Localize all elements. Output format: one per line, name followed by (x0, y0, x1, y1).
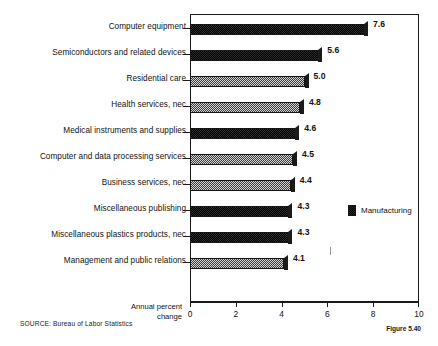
bar-value-label: 5.6 (327, 45, 339, 55)
bar-bevel-side (284, 258, 288, 270)
category-label: Miscellaneous publishing (94, 204, 186, 213)
bar-bevel (288, 203, 292, 218)
bar-row: Computer equipment7.6 (0, 16, 438, 42)
x-tick-label: 6 (325, 309, 330, 319)
bar (190, 99, 300, 114)
bar-bevel-side (295, 128, 299, 140)
bar (190, 229, 288, 244)
bar-value-label: 5.0 (314, 71, 326, 81)
bar-value-label: 4.8 (309, 97, 321, 107)
bar-bevel (300, 99, 304, 114)
bar-bevel-side (288, 206, 292, 218)
legend-label: Manufacturing (361, 206, 412, 215)
category-label: Residential care (126, 74, 186, 83)
category-label: Semiconductors and related devices (52, 48, 186, 57)
bar (190, 125, 295, 140)
category-tick (183, 184, 190, 185)
x-tick (373, 302, 374, 307)
category-label: Business services, nec (102, 178, 186, 187)
bar-fill (190, 258, 284, 269)
bar-fill (190, 206, 288, 217)
category-label: Computer and data processing services (40, 152, 186, 161)
bar-bevel-side (291, 180, 295, 192)
bar-rows: Computer equipment7.6Semiconductors and … (0, 14, 438, 302)
bar-bevel-side (288, 232, 292, 244)
figure-container: Computer equipment7.6Semiconductors and … (0, 0, 438, 346)
chart-legend: Manufacturing (348, 205, 412, 216)
bar-row: Medical instruments and supplies4.6 (0, 120, 438, 146)
x-tick-label: 10 (414, 309, 423, 319)
bar (190, 73, 305, 88)
bar-bevel (293, 151, 297, 166)
bar-fill (190, 24, 364, 35)
bar-fill (190, 128, 295, 139)
category-tick (183, 28, 190, 29)
bar-bevel (291, 177, 295, 192)
x-tick-label: 0 (188, 309, 193, 319)
bar-bevel-side (318, 50, 322, 62)
bar (190, 203, 288, 218)
bar-fill (190, 154, 293, 165)
bar-value-label: 4.5 (302, 149, 314, 159)
category-label: Health services, nec (111, 100, 186, 109)
bar-fill (190, 180, 291, 191)
x-tick (418, 302, 419, 307)
category-tick (183, 210, 190, 211)
x-axis-line (190, 302, 419, 303)
category-tick (183, 262, 190, 263)
x-axis-caption-line1: Annual percent (131, 302, 182, 312)
bar-bevel (364, 21, 368, 36)
bar-bevel-side (293, 154, 297, 166)
x-axis: 0246810 (190, 302, 419, 326)
bar-bevel-side (364, 24, 368, 36)
category-tick (183, 80, 190, 81)
source-note: SOURCE: Bureau of Labor Statistics (20, 320, 132, 327)
bar (190, 47, 318, 62)
x-tick (327, 302, 328, 307)
bar (190, 177, 291, 192)
bar-row: Computer and data processing services4.5 (0, 146, 438, 172)
bar-value-label: 4.3 (297, 201, 309, 211)
bar (190, 151, 293, 166)
bar-value-label: 4.4 (300, 175, 312, 185)
legend-swatch-manufacturing (348, 205, 356, 216)
bar-row: Health services, nec4.8 (0, 94, 438, 120)
x-axis-caption-line2: change (131, 312, 182, 322)
bar-value-label: 4.1 (293, 253, 305, 263)
bar-bevel (318, 47, 322, 62)
category-tick (183, 236, 190, 237)
bar-row: Miscellaneous plastics products, nec4.3 (0, 224, 438, 250)
bar-fill (190, 76, 305, 87)
bar-bevel (284, 255, 288, 270)
category-label: Management and public relations (64, 256, 186, 265)
x-tick-label: 2 (233, 309, 238, 319)
category-label: Miscellaneous plastics products, nec (51, 230, 186, 239)
category-tick (183, 54, 190, 55)
bar-row: Semiconductors and related devices5.6 (0, 42, 438, 68)
bar-value-label: 4.3 (297, 227, 309, 237)
bar-row: Management and public relations4.1 (0, 250, 438, 276)
figure-number: Figure 5.40 (386, 325, 421, 332)
bar-fill (190, 102, 300, 113)
bar-bevel (295, 125, 299, 140)
x-axis-caption: Annual percent change (131, 302, 182, 322)
category-tick (183, 106, 190, 107)
bar-row: Residential care5.0 (0, 68, 438, 94)
bar-fill (190, 232, 288, 243)
category-label: Medical instruments and supplies (63, 126, 186, 135)
chart-title (190, 0, 420, 2)
x-tick-label: 8 (371, 309, 376, 319)
x-tick-label: 4 (279, 309, 284, 319)
bar-bevel-side (300, 102, 304, 114)
bar (190, 21, 364, 36)
category-label: Computer equipment (109, 22, 186, 31)
x-tick (282, 302, 283, 307)
category-tick (183, 132, 190, 133)
scan-artifact (330, 247, 331, 255)
bar (190, 255, 284, 270)
bar-bevel (305, 73, 309, 88)
x-tick (190, 302, 191, 307)
bar-bevel (288, 229, 292, 244)
category-tick (183, 158, 190, 159)
bar-bevel-side (305, 76, 309, 88)
